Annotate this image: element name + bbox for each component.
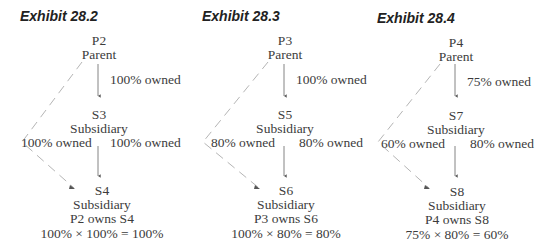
exhibit-28-2: Exhibit 28.2 P2 Parent 100% owned S3 Sub… — [0, 0, 185, 248]
middle-ownership-label: 80% owned — [299, 135, 363, 150]
exhibit-title: Exhibit 28.4 — [377, 10, 455, 26]
parent-code: P2 — [92, 33, 106, 48]
middle-code: S3 — [92, 107, 106, 122]
middle-ownership-label: 80% owned — [470, 136, 534, 151]
parent-label: Parent — [268, 47, 303, 62]
middle-code: S7 — [449, 108, 463, 123]
exhibit-title: Exhibit 28.3 — [202, 8, 280, 24]
direct-ownership-label: 100% owned — [21, 135, 92, 150]
middle-label: Subsidiary — [256, 121, 314, 136]
middle-label: Subsidiary — [70, 121, 128, 136]
bottom-label: Subsidiary — [73, 197, 131, 212]
ownership-formula: 75% × 80% = 60% — [406, 227, 509, 242]
exhibit-28-4: Exhibit 28.4 P4 Parent 75% owned S7 Subs… — [370, 0, 555, 248]
parent-label: Parent — [439, 49, 474, 64]
ownership-statement: P2 owns S4 — [70, 211, 134, 226]
top-ownership-label: 100% owned — [110, 72, 181, 87]
top-ownership-label: 100% owned — [296, 72, 367, 87]
bottom-code: S4 — [95, 183, 109, 198]
middle-label: Subsidiary — [427, 122, 485, 137]
middle-code: S5 — [278, 107, 292, 122]
parent-label: Parent — [82, 47, 117, 62]
ownership-formula: 100% × 80% = 80% — [231, 226, 341, 241]
bottom-label: Subsidiary — [257, 197, 315, 212]
parent-code: P3 — [278, 33, 292, 48]
ownership-formula: 100% × 100% = 100% — [40, 226, 163, 241]
direct-ownership-label: 80% owned — [211, 135, 275, 150]
ownership-statement: P4 owns S8 — [425, 212, 489, 227]
exhibit-28-3: Exhibit 28.3 P3 Parent 100% owned S5 Sub… — [185, 0, 370, 248]
ownership-statement: P3 owns S6 — [254, 211, 318, 226]
bottom-label: Subsidiary — [428, 198, 486, 213]
parent-code: P4 — [449, 35, 463, 50]
direct-ownership-label: 60% owned — [381, 136, 445, 151]
top-ownership-label: 75% owned — [467, 74, 531, 89]
exhibit-title: Exhibit 28.2 — [20, 8, 98, 24]
bottom-code: S6 — [279, 183, 293, 198]
middle-ownership-label: 100% owned — [110, 135, 181, 150]
bottom-code: S8 — [450, 184, 464, 199]
